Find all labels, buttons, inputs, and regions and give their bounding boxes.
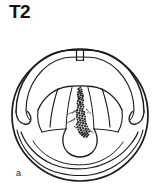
figure-panel: T2: [0, 0, 159, 193]
right-body-connector: [94, 129, 118, 132]
vertebra-cross-section-diagram: [0, 0, 159, 193]
left-lamina-line: [50, 89, 58, 128]
left-body-connector: [42, 129, 66, 132]
right-pedicle-wing: [118, 110, 122, 132]
right-facet-line: [88, 88, 94, 130]
right-lamina-line: [102, 89, 110, 128]
panel-letter-label: a: [16, 168, 21, 178]
left-facet-line: [66, 88, 72, 130]
left-pedicle-wing: [38, 110, 42, 132]
